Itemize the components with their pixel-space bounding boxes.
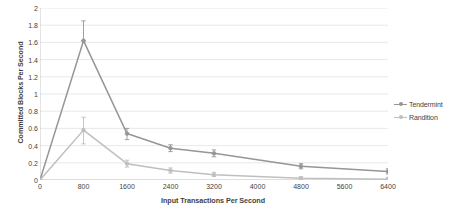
y-axis-tick-labels: 00.20.40.60.811.21.41.61.82	[24, 8, 38, 180]
data-point	[125, 132, 129, 136]
y-tick-label: 1.8	[28, 22, 38, 29]
data-point	[125, 162, 129, 166]
chart-legend: TendermintRandition	[394, 98, 456, 124]
legend-marker-icon	[394, 113, 407, 122]
series-tendermint	[40, 21, 388, 180]
line-chart: Committed Blocks Per Second 00.20.40.60.…	[0, 0, 458, 213]
data-point	[169, 169, 173, 173]
legend-item[interactable]: Tendermint	[394, 98, 456, 111]
data-point	[299, 164, 303, 168]
data-point	[212, 151, 216, 155]
data-point	[82, 39, 86, 43]
data-point	[169, 146, 173, 150]
x-tick-label: 5600	[337, 183, 353, 190]
data-point	[386, 177, 388, 180]
y-tick-label: 1.2	[28, 73, 38, 80]
series-randition	[40, 117, 388, 180]
y-tick-label: 0.2	[28, 159, 38, 166]
series-line	[40, 41, 388, 180]
y-tick-label: 0.4	[28, 142, 38, 149]
x-tick-label: 4800	[293, 183, 309, 190]
data-point	[386, 170, 388, 174]
data-point	[82, 128, 86, 132]
plot-area	[40, 8, 388, 180]
data-point	[212, 173, 216, 177]
x-tick-label: 3200	[206, 183, 222, 190]
x-tick-label: 6400	[380, 183, 396, 190]
y-tick-label: 1	[34, 91, 38, 98]
y-tick-label: 2	[34, 5, 38, 12]
legend-item[interactable]: Randition	[394, 111, 456, 124]
x-axis-title-label: Input Transactions Per Second	[161, 196, 265, 205]
y-tick-label: 1.6	[28, 39, 38, 46]
x-tick-label: 4000	[250, 183, 266, 190]
legend-item-label: Tendermint	[409, 101, 443, 108]
x-tick-label: 0	[38, 183, 42, 190]
plot-svg	[40, 8, 388, 180]
y-tick-label: 1.4	[28, 56, 38, 63]
x-tick-label: 2400	[163, 183, 179, 190]
data-point	[299, 176, 303, 180]
y-tick-label: 0.6	[28, 125, 38, 132]
legend-marker-icon	[394, 100, 407, 109]
x-tick-label: 1600	[119, 183, 135, 190]
x-axis-title: Input Transactions Per Second	[38, 196, 388, 205]
x-tick-label: 800	[78, 183, 90, 190]
x-axis-tick-labels: 08001600240032004000480056006400	[40, 183, 388, 195]
y-tick-label: 0.8	[28, 108, 38, 115]
legend-item-label: Randition	[409, 114, 438, 121]
